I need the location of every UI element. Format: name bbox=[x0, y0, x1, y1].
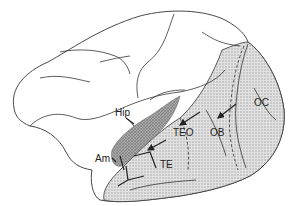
label-ob: OB bbox=[210, 128, 224, 138]
label-te: TE bbox=[160, 160, 173, 170]
brain-diagram bbox=[0, 0, 297, 206]
label-teo: TEO bbox=[173, 128, 194, 138]
label-hip: Hip bbox=[115, 108, 130, 118]
label-am: Am bbox=[95, 154, 110, 164]
label-oc: OC bbox=[254, 98, 269, 108]
